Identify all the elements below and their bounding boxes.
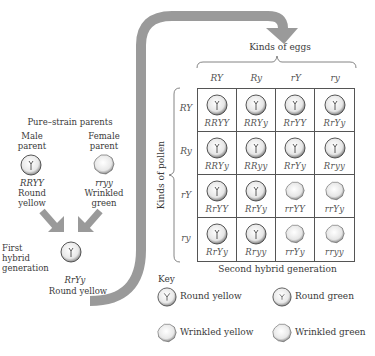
round-pea-icon (324, 137, 346, 159)
wrinkled-pea-icon (284, 223, 306, 245)
punnett-cell: RRYy (237, 89, 276, 132)
eggs-title: Kinds of eggs (240, 42, 320, 52)
pollen-type-header: ry (176, 233, 196, 243)
male-phenotype-line2: yellow (11, 198, 53, 208)
f1-label-line3: generation (2, 263, 46, 273)
egg-type-header: ry (316, 73, 356, 83)
pollen-title: Kinds of pollen (156, 130, 166, 220)
wrinkled-pea-icon (284, 180, 306, 202)
cell-genotype: RrYY (284, 118, 307, 128)
pollen-type-header: RY (176, 103, 196, 113)
male-label-line1: Male (12, 131, 52, 141)
female-label-line1: Female (82, 131, 126, 141)
cell-genotype: RRyy (244, 161, 267, 171)
round-pea-icon (284, 94, 306, 116)
f1-genotype: RrYy (55, 275, 95, 285)
male-parent-label: Male parent (12, 131, 52, 151)
f1-phenotype: Round yellow (38, 286, 118, 296)
wrinkled-pea-icon (324, 223, 346, 245)
cell-genotype: RrYy (284, 161, 306, 171)
f2-caption: Second hybrid generation (200, 264, 355, 274)
f1-label-line2: hybrid (2, 253, 46, 263)
female-phenotype: Wrinkled green (80, 188, 128, 208)
egg-type-header: Ry (237, 73, 277, 83)
cell-genotype: RrYy (245, 204, 267, 214)
male-label-line2: parent (12, 141, 52, 151)
female-wrinkled-pea-icon (92, 153, 116, 176)
male-phenotype-line1: Round (11, 188, 53, 198)
round-pea-icon (245, 94, 267, 116)
egg-type-header: RY (197, 73, 237, 83)
male-round-pea-icon (20, 154, 42, 176)
punnett-square: RRYYRRYyRrYYRrYyRRYyRRyyRrYyRryyRrYYRrYy… (197, 88, 355, 262)
cell-genotype: RRYy (205, 161, 229, 171)
cell-genotype: rrYy (285, 247, 305, 257)
f1-round-pea-icon (60, 241, 82, 263)
key-round-green-icon (272, 287, 292, 307)
male-phenotype: Round yellow (11, 188, 53, 208)
round-pea-icon (245, 137, 267, 159)
key-label-round-yellow: Round yellow (180, 291, 242, 301)
key-label-wrinkled-yellow: Wrinkled yellow (180, 327, 253, 337)
male-genotype: RRYY (11, 178, 53, 188)
female-label-line2: parent (82, 141, 126, 151)
wrinkled-pea-icon (324, 180, 346, 202)
female-genotype: rryy (82, 178, 126, 188)
round-pea-icon (284, 137, 306, 159)
pollen-type-header: Ry (176, 146, 196, 156)
punnett-cell: RrYy (276, 132, 315, 175)
eggs-brace (197, 56, 356, 68)
punnett-cell: RrYy (198, 218, 237, 261)
key-wrinkled-yellow-icon (156, 322, 178, 344)
cell-genotype: rryy (325, 247, 344, 257)
round-pea-icon (324, 94, 346, 116)
female-phenotype-line2: green (80, 198, 128, 208)
punnett-cell: RRYy (198, 132, 237, 175)
punnett-cell: rryy (315, 218, 354, 261)
punnett-cell: RrYY (198, 175, 237, 218)
cell-genotype: RrYY (206, 204, 229, 214)
round-pea-icon (206, 223, 228, 245)
round-pea-icon (245, 180, 267, 202)
punnett-cell: rrYy (276, 218, 315, 261)
punnett-cell: RRyy (237, 132, 276, 175)
key-wrinkled-green-icon (271, 322, 293, 344)
punnett-cell: Rryy (237, 218, 276, 261)
punnett-cell: rrYy (315, 175, 354, 218)
cell-genotype: rrYy (325, 204, 345, 214)
female-parent-label: Female parent (82, 131, 126, 151)
punnett-cell: RrYY (276, 89, 315, 132)
cell-genotype: RRYY (205, 118, 230, 128)
punnett-cell: Rryy (315, 132, 354, 175)
punnett-cell: RrYy (315, 89, 354, 132)
male-to-f1-arrow (42, 211, 64, 232)
round-pea-icon (206, 94, 228, 116)
f1-label: First hybrid generation (2, 243, 46, 273)
key-label-round-green: Round green (295, 291, 354, 301)
punnett-cell: RrYy (237, 175, 276, 218)
f1-label-line1: First (2, 243, 46, 253)
female-to-f1-arrow (78, 211, 100, 232)
pollen-type-header: rY (176, 190, 196, 200)
round-pea-icon (245, 223, 267, 245)
key-label-wrinkled-green: Wrinkled green (295, 327, 366, 337)
cell-genotype: rrYY (285, 204, 306, 214)
female-phenotype-line1: Wrinkled (80, 188, 128, 198)
round-pea-icon (206, 180, 228, 202)
cell-genotype: RrYy (323, 118, 345, 128)
punnett-cell: rrYY (276, 175, 315, 218)
key-title: Key (158, 274, 175, 284)
round-pea-icon (206, 137, 228, 159)
key-round-yellow-icon (157, 287, 177, 307)
cell-genotype: Rryy (324, 161, 345, 171)
cell-genotype: RrYy (206, 247, 228, 257)
punnett-cell: RRYY (198, 89, 237, 132)
egg-type-header: rY (276, 73, 316, 83)
cell-genotype: RRYy (244, 118, 268, 128)
parents-title: Pure–strain parents (20, 117, 120, 127)
cell-genotype: Rryy (245, 247, 266, 257)
